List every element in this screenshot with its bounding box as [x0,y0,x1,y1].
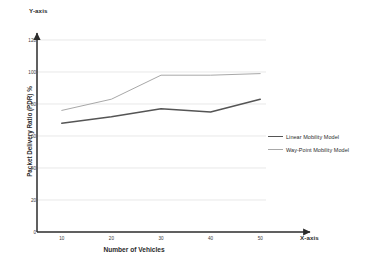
legend-label: Linear Mobility Model [286,134,339,140]
legend-swatch [268,149,283,150]
x-tick-label: 30 [149,236,173,241]
legend-swatch [268,136,283,137]
legend-item-0: Linear Mobility Model [268,130,349,143]
x-tick-label: 50 [248,236,272,241]
legend-label: Way-Point Mobility Model [286,147,349,153]
chart-legend: Linear Mobility ModelWay-Point Mobility … [268,130,349,156]
x-tick-label: 20 [99,236,123,241]
x-tick-label: 10 [50,236,74,241]
x-tick-label: 40 [199,236,223,241]
chart-figure: Y-axis X-axis Number of Vehicles Packet … [0,0,379,267]
legend-item-1: Way-Point Mobility Model [268,143,349,156]
